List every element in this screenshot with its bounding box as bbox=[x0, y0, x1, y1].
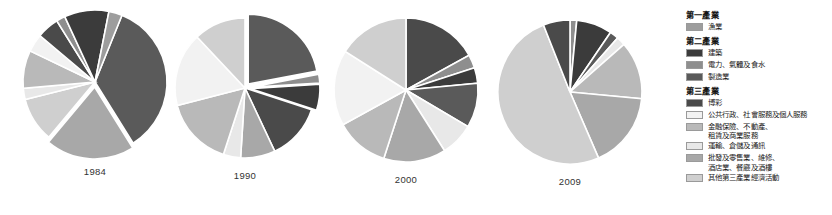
pie-svg-1984: 製造業 — 35批發及零售業、維修、酒店業、餐廳及酒樓 — 20其他第三產業經濟… bbox=[13, 0, 177, 164]
legend-label: 運輸、倉儲及通訊 bbox=[708, 141, 765, 150]
legend-item-gambling: 博彩 bbox=[686, 98, 832, 109]
legend-swatch-other_tertiary bbox=[686, 174, 703, 182]
legend-swatch-wholesale_retail bbox=[686, 154, 703, 162]
chart-legend: 第一產業漁業第二產業建築電力、氣體及食水製造業第三產業博彩公共行政、社會服務及個… bbox=[686, 10, 832, 185]
legend-swatch-finance bbox=[686, 123, 703, 131]
pie-year-label-1984: 1984 bbox=[13, 166, 177, 177]
legend-group-title: 第一產業 bbox=[686, 10, 832, 21]
legend-label: 金融保險、不動產、 租賃及商業服務 bbox=[708, 122, 772, 140]
legend-label: 建築 bbox=[708, 48, 722, 57]
legend-label: 漁業 bbox=[708, 22, 722, 31]
legend-swatch-construction bbox=[686, 49, 703, 57]
legend-item-public_admin: 公共行政、社會服務及個人服務 bbox=[686, 110, 832, 121]
legend-swatch-gambling bbox=[686, 99, 703, 107]
legend-item-transport: 運輸、倉儲及通訊 bbox=[686, 141, 832, 152]
legend-swatch-utilities bbox=[686, 61, 703, 69]
pie-chart-figure: 製造業 — 35批發及零售業、維修、酒店業、餐廳及酒樓 — 20其他第三產業經濟… bbox=[0, 0, 832, 215]
pie-svg-2000: 博彩 — 17電力、氣體及食水 — 3建築 — 3.5製造業 — 10運輸、倉儲… bbox=[324, 8, 488, 172]
legend-item-other_tertiary: 其他第三產業經濟活動 bbox=[686, 173, 832, 184]
legend-label: 製造業 bbox=[708, 72, 729, 81]
pie-year-label-2000: 2000 bbox=[324, 174, 488, 185]
legend-item-fishing: 漁業 bbox=[686, 22, 832, 33]
legend-swatch-transport bbox=[686, 142, 703, 150]
pie-chart-2009: 電力、氣體及食水 — 1.5建築 — 8製造業 — 2運輸、倉儲及通訊 — 2金… bbox=[488, 10, 652, 174]
pie-chart-1984: 製造業 — 35批發及零售業、維修、酒店業、餐廳及酒樓 — 20其他第三產業經濟… bbox=[13, 0, 177, 164]
pie-svg-1990: 製造業 — 22電力、氣體及食水 — 2建築 — 6博彩 — 13批發及零售業、… bbox=[165, 8, 325, 168]
legend-item-construction: 建築 bbox=[686, 48, 832, 59]
legend-item-manufacturing: 製造業 bbox=[686, 72, 832, 83]
legend-item-utilities: 電力、氣體及食水 bbox=[686, 60, 832, 71]
legend-swatch-public_admin bbox=[686, 111, 703, 119]
legend-label: 博彩 bbox=[708, 98, 722, 107]
legend-item-wholesale_retail: 批發及零售業、維修、 酒店業、餐廳及酒樓 bbox=[686, 153, 832, 171]
pie-year-label-1990: 1990 bbox=[165, 170, 325, 181]
pie-slice-manufacturing: 製造業 — 22 bbox=[248, 14, 317, 84]
legend-group-title: 第二產業 bbox=[686, 36, 832, 47]
legend-label: 其他第三產業經濟活動 bbox=[708, 173, 779, 182]
legend-swatch-manufacturing bbox=[686, 73, 703, 81]
legend-item-finance: 金融保險、不動產、 租賃及商業服務 bbox=[686, 122, 832, 140]
pie-year-label-2009: 2009 bbox=[488, 176, 652, 187]
legend-label: 電力、氣體及食水 bbox=[708, 60, 765, 69]
legend-label: 公共行政、社會服務及個人服務 bbox=[708, 110, 807, 119]
legend-swatch-fishing bbox=[686, 23, 703, 31]
pie-chart-1990: 製造業 — 22電力、氣體及食水 — 2建築 — 6博彩 — 13批發及零售業、… bbox=[165, 8, 325, 168]
pie-chart-2000: 博彩 — 17電力、氣體及食水 — 3建築 — 3.5製造業 — 10運輸、倉儲… bbox=[324, 8, 488, 172]
legend-label: 批發及零售業、維修、 酒店業、餐廳及酒樓 bbox=[708, 153, 779, 171]
pie-svg-2009: 電力、氣體及食水 — 1.5建築 — 8製造業 — 2運輸、倉儲及通訊 — 2金… bbox=[488, 10, 652, 174]
legend-group-title: 第三產業 bbox=[686, 86, 832, 97]
